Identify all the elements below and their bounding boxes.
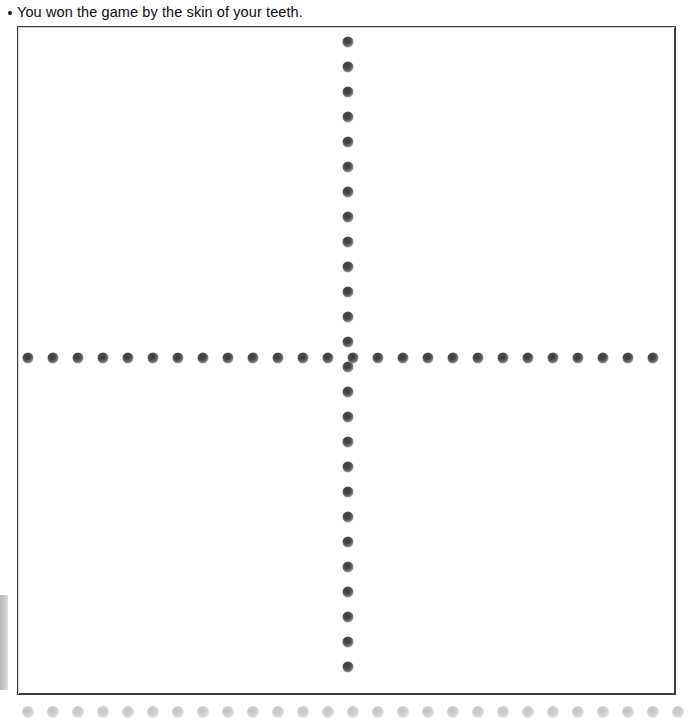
bottom-guide-dot [372, 706, 384, 718]
bottom-guide-dot [647, 706, 659, 718]
bottom-guide-dot [272, 706, 284, 718]
caption-line: You won the game by the skin of your tee… [8, 0, 668, 24]
bottom-guide-dot [322, 706, 334, 718]
bottom-guide-dot [397, 706, 409, 718]
caption-text: You won the game by the skin of your tee… [17, 4, 303, 20]
bottom-guide-dot [447, 706, 459, 718]
bottom-guide-dot [97, 706, 109, 718]
bottom-guide-dot [72, 706, 84, 718]
bottom-guide-dot [297, 706, 309, 718]
bottom-guide-dot [147, 706, 159, 718]
left-margin-scan-bar [0, 595, 8, 690]
bottom-guide-dot [597, 706, 609, 718]
bottom-guide-dot [672, 706, 684, 718]
bottom-guide-dot [622, 706, 634, 718]
bottom-guide-dot [22, 706, 34, 718]
bottom-guide-dot [572, 706, 584, 718]
bottom-guide-dot [347, 706, 359, 718]
bottom-guide-dot [222, 706, 234, 718]
bottom-guide-dot [497, 706, 509, 718]
bottom-guide-dot [47, 706, 59, 718]
bottom-guide-dot [197, 706, 209, 718]
bullet-point-icon [8, 11, 12, 15]
bottom-guide-dot [547, 706, 559, 718]
bottom-guide-dot [122, 706, 134, 718]
bottom-guide-dot [247, 706, 259, 718]
answer-box[interactable] [17, 26, 676, 695]
bottom-guide-dot [522, 706, 534, 718]
bottom-guide-dot [472, 706, 484, 718]
bottom-guide-dot [422, 706, 434, 718]
bottom-guide-dot [172, 706, 184, 718]
